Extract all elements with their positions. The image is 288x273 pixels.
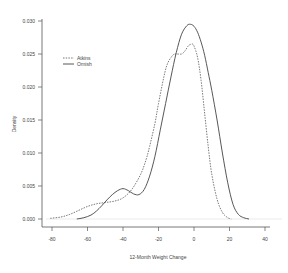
x-tick-label: 40 bbox=[262, 236, 268, 242]
x-tick-label: 20 bbox=[227, 236, 233, 242]
x-tick-label: -40 bbox=[119, 236, 126, 242]
y-axis-title: Density bbox=[11, 115, 17, 132]
y-tick-label: 0.025 bbox=[22, 51, 35, 57]
y-tick-label: 0.005 bbox=[22, 183, 35, 189]
x-tick-label: 0 bbox=[193, 236, 196, 242]
y-tick-label: 0.015 bbox=[22, 117, 35, 123]
series-line-atkins bbox=[50, 44, 231, 219]
legend: Atkins Ornish bbox=[63, 55, 92, 67]
legend-item-ornish: Ornish bbox=[63, 61, 92, 67]
y-axis-ticks: 0.0000.0050.0100.0150.0200.0250.030 bbox=[22, 18, 42, 222]
y-tick-label: 0.020 bbox=[22, 84, 35, 90]
x-tick-label: -80 bbox=[48, 236, 55, 242]
legend-label-ornish: Ornish bbox=[77, 61, 92, 67]
x-tick-label: -60 bbox=[84, 236, 91, 242]
y-tick-label: 0.030 bbox=[22, 18, 35, 24]
x-tick-label: -20 bbox=[155, 236, 162, 242]
series-group bbox=[50, 24, 249, 219]
x-axis-ticks: -80-60-40-2002040 bbox=[48, 227, 268, 242]
y-tick-label: 0.000 bbox=[22, 216, 35, 222]
density-chart: 0.0000.0050.0100.0150.0200.0250.030 -80-… bbox=[0, 0, 288, 273]
series-line-ornish bbox=[77, 24, 249, 219]
x-axis-title: 12-Month Weight Change bbox=[130, 254, 187, 260]
y-tick-label: 0.010 bbox=[22, 150, 35, 156]
